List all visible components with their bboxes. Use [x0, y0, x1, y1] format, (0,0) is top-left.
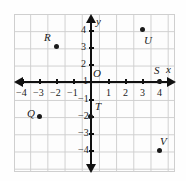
data-point-Q: [37, 114, 42, 119]
data-point-label-U: U: [144, 35, 152, 46]
data-point-label-Q: Q: [27, 108, 35, 119]
x-tick-mark: [39, 79, 41, 84]
y-tick-label: 1: [83, 76, 88, 86]
data-point-U: [140, 27, 145, 32]
origin-label: O: [93, 68, 101, 79]
y-tick-mark: [89, 64, 94, 66]
x-tick-mark: [142, 79, 144, 84]
y-tick-label: 2: [81, 59, 86, 69]
y-tick-mark: [89, 81, 94, 83]
data-point-label-R: R: [44, 32, 51, 43]
x-tick-label: −2: [50, 88, 61, 98]
x-tick-mark: [125, 79, 127, 84]
x-tick-label: 4: [157, 88, 162, 98]
y-tick-mark: [89, 133, 94, 135]
y-tick-label: 4: [81, 25, 86, 35]
y-axis-line: [90, 18, 92, 168]
data-point-label-S: S: [154, 65, 160, 76]
y-tick-mark: [89, 99, 94, 101]
x-tick-label: 2: [123, 88, 128, 98]
x-axis-line: [18, 81, 170, 83]
data-point-R: [54, 44, 59, 49]
data-point-label-T: T: [95, 101, 101, 112]
x-tick-label: 1: [106, 88, 111, 98]
y-tick-mark: [89, 150, 94, 152]
y-axis-arrow-up-icon: [86, 14, 96, 23]
x-tick-mark: [22, 79, 24, 84]
data-point-V: [157, 148, 162, 153]
x-tick-label: −3: [33, 88, 44, 98]
y-axis-arrow-down-icon: [86, 164, 96, 173]
data-point-T: [88, 114, 93, 119]
y-tick-label: 3: [81, 42, 86, 52]
x-tick-label: −1: [67, 88, 78, 98]
x-tick-mark: [108, 79, 110, 84]
coordinate-plane-figure: x y O −4 −3 −2 −1 1 2 3 4 4 3 2 1 −1 −2 …: [0, 0, 186, 181]
x-tick-mark: [73, 79, 75, 84]
y-tick-mark: [89, 30, 94, 32]
y-tick-label: −1: [78, 94, 89, 104]
data-point-S: [157, 79, 162, 84]
y-tick-label: −4: [78, 145, 89, 155]
x-tick-label: 3: [140, 88, 145, 98]
y-tick-label: −3: [78, 128, 89, 138]
x-axis-label: x: [166, 64, 171, 75]
y-axis-label: y: [96, 16, 101, 27]
x-tick-label: −4: [16, 88, 27, 98]
data-point-label-V: V: [160, 136, 167, 147]
x-tick-mark: [56, 79, 58, 84]
x-axis-arrow-right-icon: [167, 77, 176, 87]
y-tick-mark: [89, 47, 94, 49]
